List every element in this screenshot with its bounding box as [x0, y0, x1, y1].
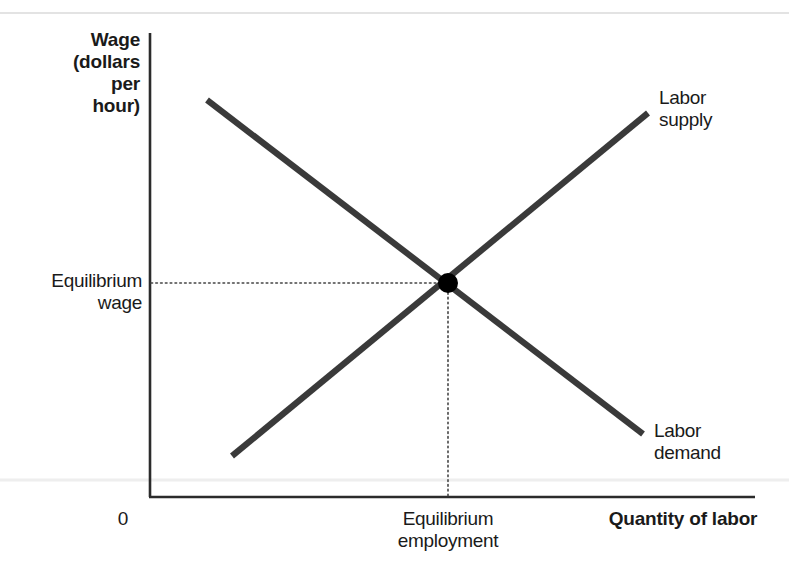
y-axis-title: Wage (dollars per hour) [22, 29, 140, 117]
labor-demand-label: Labor demand [654, 420, 721, 464]
equilibrium-employment-label: Equilibrium employment [358, 508, 538, 552]
equilibrium-point-marker [438, 273, 458, 293]
x-axis-title: Quantity of labor [592, 508, 774, 530]
labor-market-diagram: Wage (dollars per hour) Equilibrium wage… [0, 0, 789, 583]
equilibrium-wage-label: Equilibrium wage [8, 270, 142, 314]
origin-label: 0 [105, 508, 141, 530]
labor-supply-label: Labor supply [659, 87, 712, 131]
labor-demand-curve [207, 100, 643, 434]
